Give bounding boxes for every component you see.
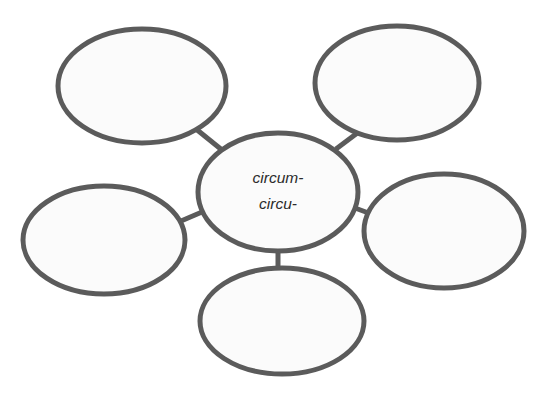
branch-bubble-top-right[interactable] [315,26,479,140]
branch-bubble-top-right-shape[interactable] [315,26,479,140]
bubble-layer: circum-circu- [23,26,524,374]
connector-center-to-top-left [196,129,222,150]
word-web-canvas: circum-circu- [0,0,540,399]
branch-bubble-left[interactable] [23,186,185,294]
branch-bubble-bottom-shape[interactable] [200,268,364,374]
branch-bubble-bottom[interactable] [200,268,364,374]
branch-bubble-top-left-shape[interactable] [58,29,226,143]
center-bubble-shape[interactable] [198,133,358,251]
branch-bubble-right[interactable] [364,174,524,288]
branch-bubble-right-shape[interactable] [364,174,524,288]
branch-bubble-left-shape[interactable] [23,186,185,294]
word-web-diagram: circum-circu- [0,0,540,399]
center-bubble-label-line-1: circum- [253,169,304,186]
center-bubble[interactable]: circum-circu- [198,133,358,251]
branch-bubble-top-left[interactable] [58,29,226,143]
center-bubble-label-line-2: circu- [259,195,297,212]
